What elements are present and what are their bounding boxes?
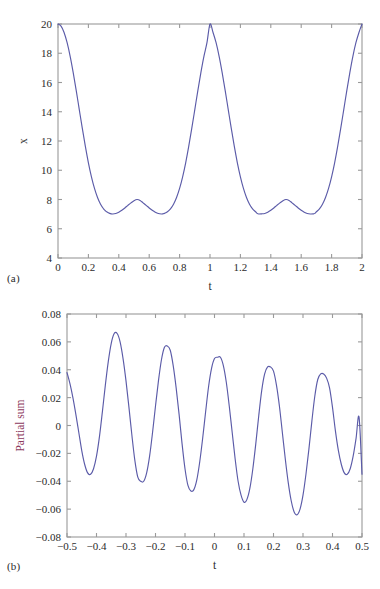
x-tick-label: 0 [212, 540, 218, 552]
x-tick-label: 1.4 [264, 261, 278, 273]
y-tick-label: 16 [41, 77, 53, 89]
y-tick-label: 0.08 [42, 308, 62, 320]
x-tick-label: 2 [359, 261, 365, 273]
x-tick-label: 0.6 [142, 261, 156, 273]
x-tick-label: 0.3 [296, 540, 310, 552]
y-tick-label: 8 [47, 194, 53, 206]
x-tick-label: 0 [55, 261, 61, 273]
y-tick-label: 14 [41, 106, 53, 118]
y-tick-label: 12 [41, 135, 52, 147]
y-tick-label: −0.04 [36, 475, 62, 487]
x-tick-label: 1 [207, 261, 213, 273]
y-tick-label: 18 [41, 47, 53, 59]
plot-frame [67, 314, 362, 537]
data-curve [67, 332, 362, 514]
x-tick-label: −0.3 [116, 540, 136, 552]
data-curve [58, 24, 362, 214]
figure-container: 00.20.40.60.811.21.41.61.824681012141618… [0, 0, 380, 589]
x-tick-label: −0.1 [175, 540, 195, 552]
x-axis-title: t [208, 280, 212, 292]
x-tick-label: 0.2 [82, 261, 96, 273]
x-tick-label: 0.4 [326, 540, 340, 552]
y-tick-label: 20 [41, 18, 53, 30]
x-tick-label: 1.6 [294, 261, 308, 273]
x-tick-label: 1.8 [325, 261, 339, 273]
x-tick-label: 1.2 [234, 261, 248, 273]
x-tick-label: −0.4 [87, 540, 107, 552]
y-tick-label: −0.06 [36, 503, 62, 515]
y-tick-label: −0.08 [36, 531, 62, 543]
x-tick-label: −0.2 [146, 540, 166, 552]
plot-frame [58, 24, 362, 258]
panel-a-plot: 00.20.40.60.811.21.41.61.824681012141618… [0, 0, 380, 295]
y-axis-title: x [17, 138, 29, 144]
y-tick-label: 6 [47, 223, 53, 235]
panel-a-tag: (a) [7, 272, 20, 284]
y-tick-label: 4 [47, 252, 53, 264]
panel-b-tag: (b) [7, 560, 20, 572]
panel-b-plot: −0.5−0.4−0.3−0.2−0.100.10.20.30.40.5−0.0… [0, 292, 380, 589]
x-tick-label: 0.5 [355, 540, 369, 552]
x-axis-title: t [213, 559, 217, 571]
y-tick-label: 10 [41, 164, 53, 176]
y-tick-label: 0.04 [42, 364, 62, 376]
y-tick-label: −0.02 [36, 447, 61, 459]
y-axis-title: Partial sum [14, 399, 26, 451]
panel-a: 00.20.40.60.811.21.41.61.824681012141618… [0, 0, 380, 295]
x-tick-label: 0.8 [173, 261, 187, 273]
y-tick-label: 0 [56, 420, 62, 432]
x-tick-label: 0.4 [112, 261, 126, 273]
panel-b: −0.5−0.4−0.3−0.2−0.100.10.20.30.40.5−0.0… [0, 292, 380, 589]
x-tick-label: 0.2 [267, 540, 281, 552]
y-tick-label: 0.02 [42, 392, 61, 404]
y-tick-label: 0.06 [42, 336, 62, 348]
x-tick-label: 0.1 [237, 540, 251, 552]
